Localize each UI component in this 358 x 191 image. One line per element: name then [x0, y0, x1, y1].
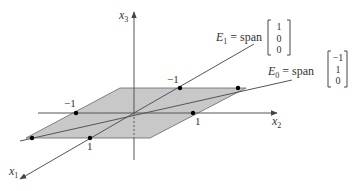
diagram-canvas: −1 1 −1 1 x3 x2 x1 E1= span 1 0 0 E0= sp…	[0, 0, 358, 191]
point-x1-neg1	[178, 86, 182, 90]
e1-vector-1: 0	[277, 33, 282, 44]
e0-label: E0= span −1 1 0	[267, 51, 347, 87]
tick-x1-neg1: −1	[167, 73, 179, 85]
svg-text:E0= span: E0= span	[267, 64, 314, 80]
e0-vector-1: 1	[336, 64, 341, 75]
e1-bracket-left	[268, 20, 271, 55]
point-x2-neg1	[74, 111, 78, 115]
e1-vector-0: 1	[277, 21, 282, 32]
svg-text:E1= span: E1= span	[215, 30, 262, 46]
e1-bracket-right	[287, 20, 290, 55]
e1-vector-2: 0	[277, 44, 282, 55]
e0-vector-2: 0	[336, 75, 341, 86]
e1-label: E1= span 1 0 0	[215, 20, 290, 55]
point-e0-neg	[236, 86, 240, 90]
x1-axis-label: x1	[8, 164, 18, 180]
tick-x1-pos1: 1	[87, 140, 93, 152]
tick-x2-pos1: 1	[195, 115, 201, 127]
e0-bracket-right	[344, 51, 347, 87]
tick-x2-neg1: −1	[64, 97, 76, 109]
e0-vector-0: −1	[333, 52, 344, 63]
x3-axis-label: x3	[118, 8, 128, 24]
e0-bracket-left	[328, 51, 331, 87]
x2-axis-label: x2	[271, 114, 281, 130]
point-e0-pos	[30, 136, 34, 140]
